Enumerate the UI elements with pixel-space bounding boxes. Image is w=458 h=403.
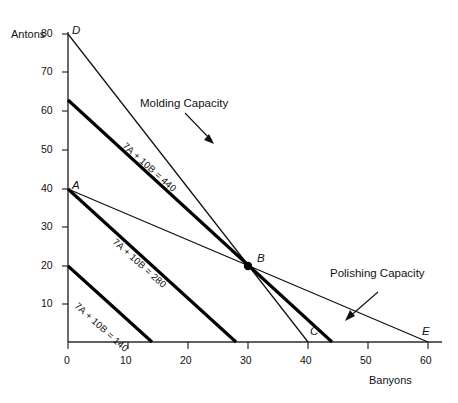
y-tick-label-80: 80: [41, 28, 53, 39]
iso-profit-line-440: [68, 100, 332, 342]
molding-callout-arrowhead: [204, 134, 214, 144]
y-tick-label-70: 70: [41, 66, 53, 77]
chart-canvas: Antons Banyons 80 70 60 50 40 30 20 10 0…: [0, 0, 458, 403]
x-tick-label-10: 10: [120, 355, 132, 366]
y-tick-label-40: 40: [41, 183, 53, 194]
point-B-marker: [244, 262, 252, 270]
y-tick-label-30: 30: [41, 221, 53, 232]
point-label-D: D: [72, 25, 80, 37]
point-label-A: A: [72, 180, 80, 192]
polishing-callout-arrowhead: [345, 310, 355, 321]
x-tick-label-20: 20: [180, 355, 192, 366]
y-axis-ticks: [62, 34, 68, 304]
x-tick-label-60: 60: [420, 355, 432, 366]
y-tick-label-60: 60: [41, 105, 53, 116]
x-tick-label-30: 30: [240, 355, 252, 366]
linear-programming-plot: [0, 0, 458, 403]
polishing-capacity-callout: Polishing Capacity: [330, 268, 425, 280]
x-tick-label-50: 50: [360, 355, 372, 366]
x-axis-title: Banyons: [369, 375, 412, 386]
point-label-C: C: [310, 326, 318, 338]
molding-capacity-line: [68, 34, 308, 342]
x-tick-label-0: 0: [64, 355, 70, 366]
y-tick-label-10: 10: [41, 298, 53, 309]
point-label-B: B: [257, 253, 265, 265]
y-tick-label-20: 20: [41, 260, 53, 271]
point-label-E: E: [422, 326, 430, 338]
molding-capacity-callout: Molding Capacity: [140, 98, 228, 110]
y-tick-label-50: 50: [41, 144, 53, 155]
x-tick-label-40: 40: [300, 355, 312, 366]
